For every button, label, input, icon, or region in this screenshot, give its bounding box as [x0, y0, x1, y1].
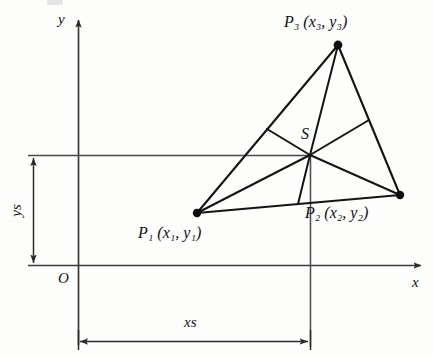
median-centroid-to-mid-p1p2 [298, 155, 310, 204]
centroid-diagram: P₃ (x₃, y₃) P₂ (x₂, y₂) P₁ (x₁, y₁) S y … [0, 0, 433, 356]
axes-group [28, 20, 421, 345]
dimension-lines-group [34, 158, 311, 350]
projection-lines-group [28, 155, 311, 347]
diagram-canvas [0, 0, 433, 356]
x-axis-label: x [412, 275, 419, 290]
x-dimension-label: xs [184, 315, 197, 330]
y-axis-label: y [58, 12, 65, 27]
point-label-p2: P₂ (x₂, y₂) [305, 205, 368, 221]
median-centroid-to-mid-p2p3 [310, 120, 369, 155]
medians-group [197, 45, 400, 213]
origin-label: O [58, 271, 69, 286]
vertex-dot-p3 [334, 41, 343, 50]
point-label-p3: P₃ (x₃, y₃) [284, 14, 347, 30]
vertex-dot-p2 [396, 191, 404, 199]
y-dimension-label: ys [9, 204, 24, 217]
point-label-centroid: S [301, 126, 309, 142]
vertex-dot-p1 [193, 209, 201, 217]
triangle-group [197, 45, 400, 213]
point-label-p1: P₁ (x₁, y₁) [138, 225, 201, 241]
